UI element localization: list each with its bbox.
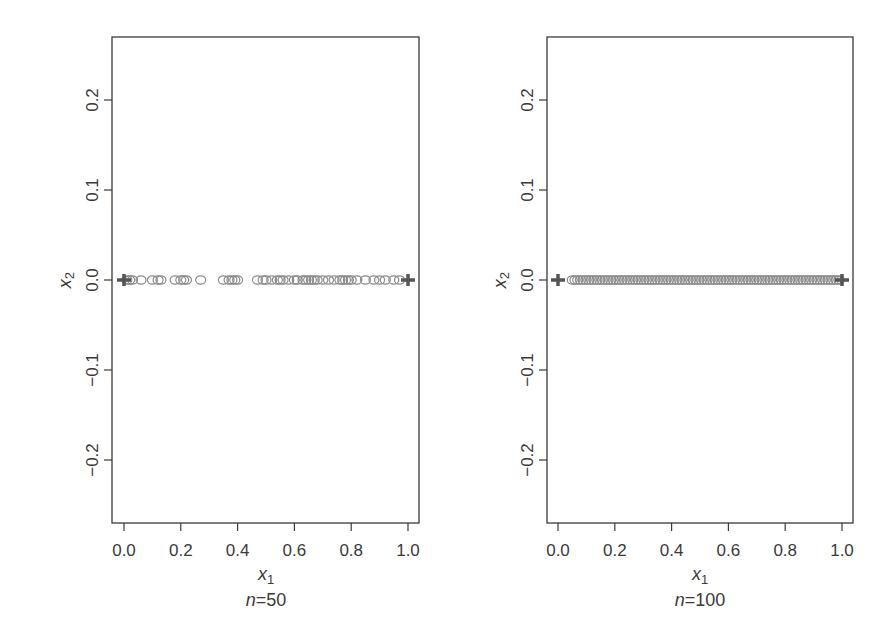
y-tick-label: 0.1	[518, 178, 537, 202]
y-tick-label: 0.2	[83, 88, 102, 112]
x-tick-label: 0.8	[339, 541, 363, 560]
panel-caption: n=50	[246, 590, 287, 610]
data-point	[230, 276, 240, 284]
y-tick-label: −0.2	[518, 443, 537, 477]
x-tick-label: 0.6	[717, 541, 741, 560]
panel-1: 0.00.20.40.60.81.0−0.2−0.10.00.10.2x1x2n…	[55, 37, 420, 610]
plot-frame	[112, 37, 419, 523]
panel-2: 0.00.20.40.60.81.0−0.2−0.10.00.10.2x1x2n…	[490, 37, 854, 610]
figure: 0.00.20.40.60.81.0−0.2−0.10.00.10.2x1x2n…	[0, 0, 892, 637]
x-tick-label: 0.0	[112, 541, 136, 560]
data-point	[341, 276, 351, 284]
data-point	[323, 276, 333, 284]
plus-marker	[551, 274, 565, 286]
data-point	[181, 276, 191, 284]
x-tick-label: 0.2	[603, 541, 627, 560]
data-point	[278, 276, 288, 284]
plus-marker	[401, 274, 415, 286]
data-point	[375, 276, 385, 284]
data-point	[272, 276, 282, 284]
x-tick-label: 0.6	[283, 541, 307, 560]
y-tick-label: 0.1	[83, 178, 102, 202]
x-tick-label: 0.2	[169, 541, 193, 560]
x-axis-label: x1	[257, 564, 274, 587]
y-tick-label: −0.1	[518, 353, 537, 387]
y-axis-label: x2	[490, 272, 512, 289]
panel-caption: n=100	[675, 590, 726, 610]
x-tick-label: 1.0	[830, 541, 854, 560]
x-axis-label: x1	[691, 564, 708, 587]
x-tick-label: 0.4	[226, 541, 250, 560]
data-point	[153, 276, 163, 284]
x-tick-label: 0.4	[660, 541, 684, 560]
x-tick-label: 0.0	[546, 541, 570, 560]
x-tick-label: 0.8	[773, 541, 797, 560]
y-axis-label: x2	[55, 272, 77, 289]
y-tick-label: 0.0	[83, 268, 102, 292]
y-tick-label: −0.1	[83, 353, 102, 387]
y-tick-label: 0.0	[518, 268, 537, 292]
data-point	[176, 276, 186, 284]
y-tick-label: −0.2	[83, 443, 102, 477]
x-tick-label: 1.0	[396, 541, 420, 560]
y-tick-label: 0.2	[518, 88, 537, 112]
data-point	[196, 276, 206, 284]
